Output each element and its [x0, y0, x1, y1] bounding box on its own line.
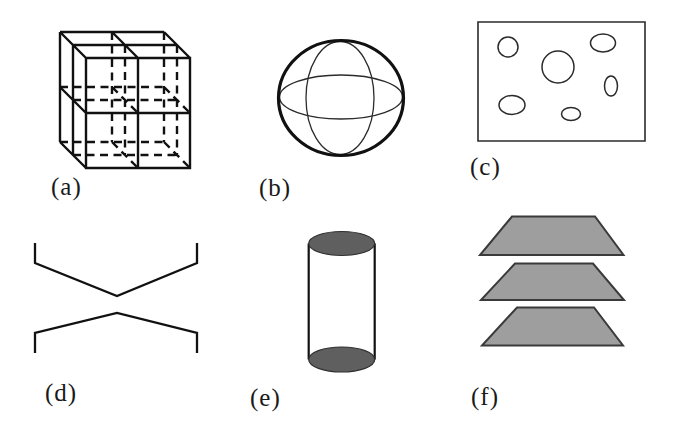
- cylinder-diagram: [300, 225, 385, 380]
- ellipse-top-left: [498, 37, 518, 57]
- polylines-diagram: [25, 235, 210, 365]
- trapezoid-middle: [481, 264, 624, 301]
- ellipses-rectangle-diagram: [470, 15, 655, 150]
- outer-rectangle: [478, 22, 645, 141]
- cylinder-top-cap: [309, 232, 375, 256]
- ellipse-bottom-left: [499, 96, 525, 115]
- ellipse-right-vertical: [605, 76, 618, 96]
- ellipse-top-right: [591, 34, 616, 52]
- ellipse-center-large: [542, 51, 574, 83]
- trapezoids-diagram: [470, 208, 640, 353]
- upper-polyline: [35, 243, 197, 296]
- sphere-outline: [279, 41, 404, 156]
- cylinder-bottom-cap: [309, 347, 375, 372]
- sphere-diagram: [270, 32, 415, 167]
- panel-label-a: (a): [51, 174, 82, 199]
- panel-label-d: (d): [45, 380, 77, 405]
- trapezoid-top: [480, 217, 624, 256]
- trapezoid-bottom: [482, 308, 623, 346]
- panel-label-c: (c): [470, 154, 501, 179]
- ellipse-bottom-center: [562, 108, 581, 121]
- lower-polyline: [35, 313, 197, 353]
- panel-label-e: (e): [250, 385, 281, 410]
- sphere-meridian: [306, 42, 374, 155]
- sphere-equator: [280, 75, 403, 119]
- panel-label-f: (f): [471, 384, 499, 409]
- figure-canvas: (a) (b) (c) (d) (e) (f): [0, 0, 678, 427]
- cube-diagram: [40, 15, 210, 180]
- panel-label-b: (b): [259, 175, 291, 200]
